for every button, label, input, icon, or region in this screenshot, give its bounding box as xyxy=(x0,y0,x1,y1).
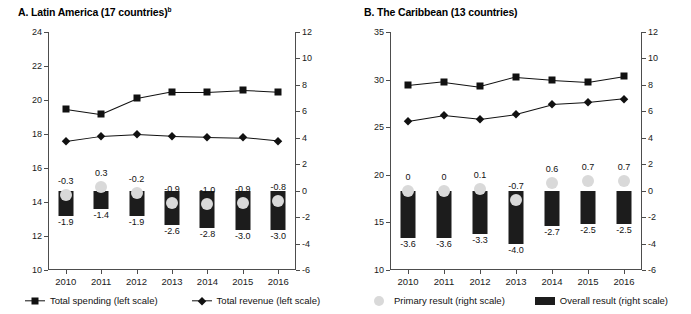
primary-result-value-label: 0.7 xyxy=(618,163,631,172)
y-tick-label-left: 10 xyxy=(32,266,42,275)
primary-result-dot xyxy=(402,185,414,197)
total-revenue-marker xyxy=(620,95,628,103)
circle-marker-icon xyxy=(369,296,389,306)
y-tick-label-left: 14 xyxy=(32,198,42,207)
y-tick-right xyxy=(296,164,300,165)
line-diamond-marker-icon xyxy=(192,296,212,306)
total-revenue-marker xyxy=(476,115,484,123)
overall-result-bar xyxy=(473,191,488,235)
total-revenue-marker xyxy=(584,99,592,107)
primary-result-dot xyxy=(438,185,450,197)
y-tick-label-right: 0 xyxy=(648,186,653,195)
y-tick-label-right: 2 xyxy=(648,160,653,169)
total-revenue-marker xyxy=(168,132,176,140)
y-tick-label-right: 10 xyxy=(648,54,658,63)
left-axis-a xyxy=(48,32,49,270)
overall-result-bar xyxy=(401,191,416,239)
y-tick-right xyxy=(296,270,300,271)
y-tick-label-left: 24 xyxy=(32,28,42,37)
primary-result-dot xyxy=(546,177,558,189)
y-tick-right xyxy=(296,85,300,86)
overall-result-value-label: -2.8 xyxy=(200,230,216,239)
x-tick xyxy=(588,270,589,274)
primary-result-value-label: 0 xyxy=(441,173,446,182)
y-tick-left xyxy=(44,202,48,203)
y-tick-right xyxy=(296,111,300,112)
overall-result-bar xyxy=(545,191,560,227)
x-tick xyxy=(408,270,409,274)
y-tick-right xyxy=(642,58,646,59)
overall-result-bar xyxy=(617,191,632,224)
y-tick-label-left: 18 xyxy=(32,130,42,139)
y-tick-right xyxy=(642,191,646,192)
bar-swatch-icon xyxy=(535,296,555,306)
x-tick-label: 2011 xyxy=(91,277,111,287)
line-segment xyxy=(516,77,552,81)
x-tick xyxy=(516,270,517,274)
y-tick-label-right: 8 xyxy=(648,80,653,89)
y-tick-left xyxy=(44,236,48,237)
primary-result-value-label: 0.7 xyxy=(582,163,595,172)
x-tick xyxy=(172,270,173,274)
total-revenue-marker xyxy=(133,130,141,138)
line-segment xyxy=(552,80,588,83)
total-revenue-marker xyxy=(274,137,282,145)
y-tick-left xyxy=(44,100,48,101)
x-tick-label: 2013 xyxy=(161,277,182,287)
y-tick-label-right: 4 xyxy=(648,133,653,142)
y-tick-left xyxy=(44,168,48,169)
y-tick-label-left: 22 xyxy=(32,62,42,71)
primary-result-dot xyxy=(582,175,594,187)
legend-a: Total spending (left scale) Total revenu… xyxy=(0,295,345,306)
y-tick-label-right: 4 xyxy=(302,133,307,142)
x-tick xyxy=(278,270,279,274)
line-segment xyxy=(480,114,516,120)
legend-label-primary-result: Primary result (right scale) xyxy=(394,295,505,306)
line-segment xyxy=(66,109,102,115)
overall-result-value-label: -3.0 xyxy=(235,232,251,241)
overall-result-value-label: -3.6 xyxy=(400,240,416,249)
x-tick-label: 2011 xyxy=(434,277,454,287)
primary-result-value-label: 0 xyxy=(405,173,410,182)
total-spending-marker xyxy=(405,82,412,89)
y-tick-right xyxy=(642,164,646,165)
overall-result-value-label: -3.3 xyxy=(472,236,488,245)
overall-result-bar xyxy=(581,191,596,224)
x-tick xyxy=(243,270,244,274)
y-tick-label-right: 2 xyxy=(302,160,307,169)
x-tick-label: 2015 xyxy=(577,277,598,287)
fiscal-indicators-figure: A. Latin America (17 countries)b 1012141… xyxy=(0,0,691,314)
y-tick-label-left: 25 xyxy=(374,123,384,132)
total-spending-marker xyxy=(133,95,140,102)
y-tick-right xyxy=(296,244,300,245)
primary-result-value-label: -0.8 xyxy=(271,183,287,192)
y-tick-label-right: -4 xyxy=(648,239,656,248)
primary-result-value-label: -0.2 xyxy=(129,175,145,184)
overall-result-bar xyxy=(437,191,452,239)
total-spending-marker xyxy=(513,73,520,80)
line-segment xyxy=(66,136,102,142)
legend-item-overall-result: Overall result (right scale) xyxy=(535,295,668,306)
overall-result-value-label: -2.6 xyxy=(164,227,180,236)
primary-result-value-label: -0.9 xyxy=(164,185,180,194)
total-spending-marker xyxy=(62,105,69,112)
y-tick-label-left: 35 xyxy=(374,28,384,37)
legend-b: Primary result (right scale) Overall res… xyxy=(346,295,691,306)
panel-a-title-text: A. Latin America (17 countries) xyxy=(18,6,168,18)
primary-result-dot xyxy=(95,181,107,193)
overall-result-value-label: -2.7 xyxy=(544,228,560,237)
total-spending-marker xyxy=(204,88,211,95)
legend-label-total-spending: Total spending (left scale) xyxy=(50,295,158,306)
line-segment xyxy=(207,90,242,93)
y-tick-right xyxy=(642,32,646,33)
y-tick-label-right: 8 xyxy=(302,80,307,89)
y-tick-left xyxy=(44,134,48,135)
y-tick-right xyxy=(642,270,646,271)
line-segment xyxy=(172,92,207,93)
y-tick-label-right: -6 xyxy=(302,266,310,275)
overall-result-value-label: -4.0 xyxy=(508,246,524,255)
primary-result-value-label: 0.1 xyxy=(474,171,487,180)
line-segment xyxy=(588,99,624,104)
total-revenue-marker xyxy=(512,110,520,118)
y-tick-left xyxy=(386,32,390,33)
